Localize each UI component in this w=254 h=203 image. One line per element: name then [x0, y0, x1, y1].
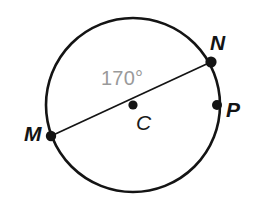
point-label-n: N: [210, 32, 225, 53]
point-label-p: P: [226, 99, 240, 120]
angle-measure-label: 170°: [101, 68, 143, 88]
circle-geometry-figure: M N P C 170°: [0, 0, 254, 203]
point-p-dot: [212, 100, 222, 110]
point-label-m: M: [24, 123, 42, 144]
point-n-dot: [205, 56, 216, 67]
point-m-dot: [46, 131, 56, 141]
center-label-c: C: [136, 112, 151, 133]
center-point-c-dot: [128, 100, 137, 109]
